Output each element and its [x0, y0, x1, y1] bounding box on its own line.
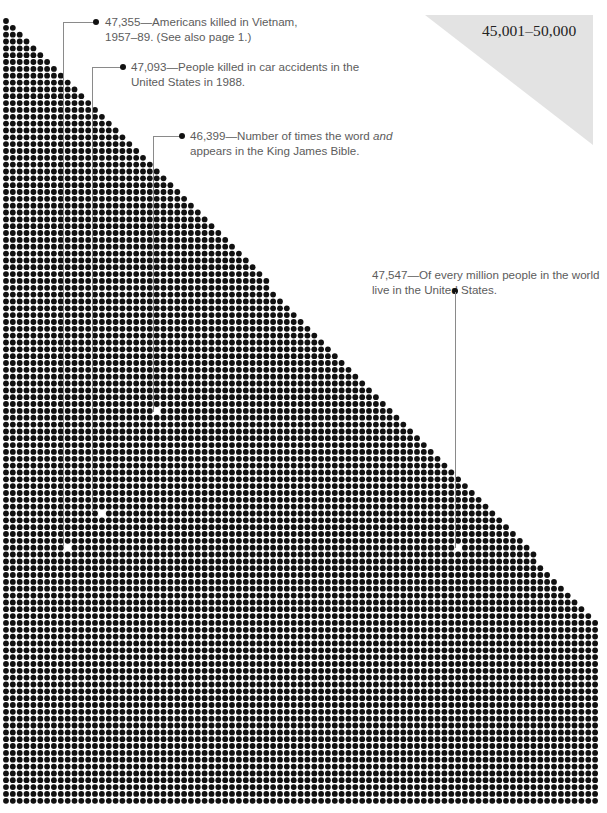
- annotation-47547: 47,547—Of every million people in the wo…: [372, 268, 600, 297]
- leader-line-47355-h: [63, 22, 96, 23]
- leader-line-46399-v: [153, 136, 154, 412]
- bullet-47355: [93, 19, 99, 25]
- annotation-47093-line2: United States in 1988.: [131, 75, 359, 90]
- annotation-46399-text: 46,399—Number of times the word: [190, 129, 373, 142]
- annotation-47355-line2: 1957–89. (See also page 1.): [105, 30, 297, 45]
- annotation-46399: 46,399—Number of times the word and appe…: [190, 129, 392, 158]
- annotation-47547-line2: live in the United States.: [372, 283, 600, 298]
- leader-line-46399-h: [153, 136, 182, 137]
- leader-line-47355-v: [63, 22, 64, 546]
- annotation-47355-line1: 47,355—Americans killed in Vietnam,: [105, 15, 297, 30]
- annotation-46399-emphasis: and: [373, 129, 392, 142]
- bullet-47093: [120, 64, 126, 70]
- range-label: 45,001–50,000: [482, 22, 576, 40]
- leader-line-47093-h: [92, 67, 123, 68]
- leader-line-47093-v: [92, 67, 93, 513]
- leader-line-47547-v: [455, 292, 456, 548]
- annotation-46399-line1: 46,399—Number of times the word and: [190, 129, 392, 144]
- annotation-47547-line1: 47,547—Of every million people in the wo…: [372, 268, 600, 283]
- annotation-47093: 47,093—People killed in car accidents in…: [131, 60, 359, 89]
- annotation-46399-line2: appears in the King James Bible.: [190, 144, 392, 159]
- bullet-46399: [179, 133, 185, 139]
- annotation-47093-line1: 47,093—People killed in car accidents in…: [131, 60, 359, 75]
- annotation-47355: 47,355—Americans killed in Vietnam, 1957…: [105, 15, 297, 44]
